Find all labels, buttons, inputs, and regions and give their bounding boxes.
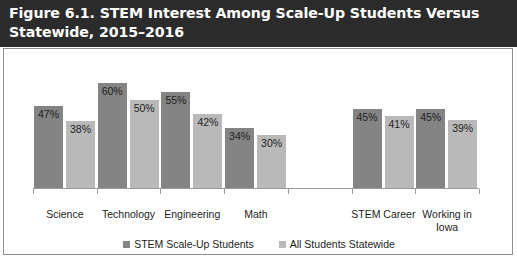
bar-value-label: 47% [34, 108, 63, 120]
axis-tick [97, 189, 98, 194]
legend-swatch-icon [279, 241, 286, 248]
axis-tick [224, 189, 225, 194]
bar-value-label: 60% [98, 85, 127, 97]
figure-title: Figure 6.1. STEM Interest Among Scale-Up… [9, 4, 503, 42]
bar-value-label: 30% [257, 137, 286, 149]
bar[interactable]: 55% [161, 92, 190, 188]
bar-value-label: 39% [448, 122, 477, 134]
plot-area: 47%38%60%50%55%42%34%30%45%41%45%39% Sci… [4, 49, 514, 256]
axis-tick [479, 189, 480, 194]
category-label: Working in Iowa [406, 208, 488, 233]
bar[interactable]: 42% [193, 114, 222, 188]
bar-value-label: 55% [161, 94, 190, 106]
bar[interactable]: 45% [416, 109, 445, 188]
bar-value-label: 41% [385, 118, 414, 130]
bar-value-label: 45% [416, 111, 445, 123]
legend-swatch-icon [123, 241, 130, 248]
category-label: Math [215, 208, 297, 221]
x-axis-line [33, 188, 479, 189]
bar[interactable]: 45% [353, 109, 382, 188]
axis-tick [160, 189, 161, 194]
bar-value-label: 34% [225, 130, 254, 142]
chart-legend: STEM Scale-Up StudentsAll Students State… [4, 238, 514, 250]
bar[interactable]: 38% [66, 121, 95, 188]
axis-tick [352, 189, 353, 194]
bar[interactable]: 30% [257, 135, 286, 188]
figure-title-banner: Figure 6.1. STEM Interest Among Scale-Up… [0, 0, 517, 47]
bar[interactable]: 39% [448, 120, 477, 188]
bar-value-label: 45% [353, 111, 382, 123]
legend-item[interactable]: STEM Scale-Up Students [123, 238, 254, 250]
figure-container: Figure 6.1. STEM Interest Among Scale-Up… [0, 0, 517, 258]
axis-tick [288, 189, 289, 194]
legend-label: STEM Scale-Up Students [134, 238, 254, 250]
legend-item[interactable]: All Students Statewide [279, 238, 395, 250]
bar[interactable]: 41% [385, 116, 414, 188]
axis-tick [415, 189, 416, 194]
axis-tick [33, 189, 34, 194]
bar-value-label: 38% [66, 123, 95, 135]
bar[interactable]: 47% [34, 106, 63, 188]
bar[interactable]: 50% [130, 100, 159, 188]
bar-value-label: 42% [193, 116, 222, 128]
chart-frame: 47%38%60%50%55%42%34%30%45%41%45%39% Sci… [3, 48, 513, 255]
bar-value-label: 50% [130, 102, 159, 114]
bar[interactable]: 60% [98, 83, 127, 188]
legend-label: All Students Statewide [290, 238, 395, 250]
bar[interactable]: 34% [225, 128, 254, 188]
